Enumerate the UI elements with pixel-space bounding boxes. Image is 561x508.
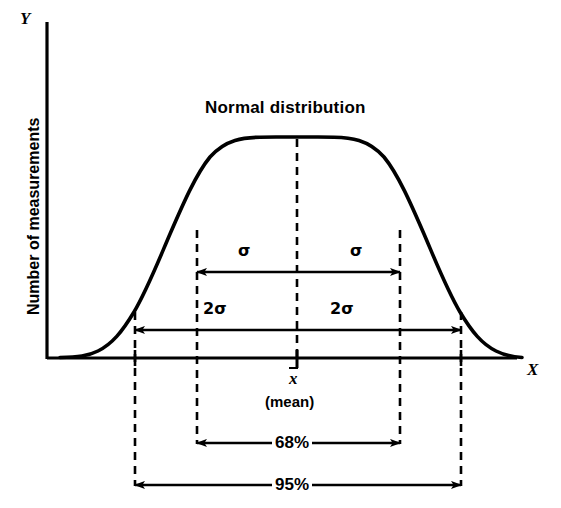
pct-95-label: 95% bbox=[272, 476, 312, 493]
x-axis-letter-label: X bbox=[527, 361, 538, 378]
pct-68-label: 68% bbox=[272, 434, 312, 451]
y-axis-letter-label: Y bbox=[20, 10, 30, 27]
mean-symbol: x bbox=[289, 367, 298, 387]
plot-canvas bbox=[0, 0, 561, 508]
mean-symbol-text: x bbox=[289, 367, 298, 387]
normal-distribution-figure: Y X Number of measurements Normal distri… bbox=[0, 0, 561, 508]
sigma-label-left: σ bbox=[238, 243, 250, 259]
chart-title: Normal distribution bbox=[205, 99, 366, 116]
axes-group bbox=[47, 22, 517, 359]
two-sigma-label-left: 2σ bbox=[203, 301, 227, 317]
two-sigma-label-right: 2σ bbox=[330, 301, 354, 317]
y-axis-title: Number of measurements bbox=[26, 118, 42, 315]
gaussian-curve bbox=[60, 137, 522, 358]
mean-caption: (mean) bbox=[265, 394, 314, 409]
sigma-label-right: σ bbox=[350, 243, 362, 259]
